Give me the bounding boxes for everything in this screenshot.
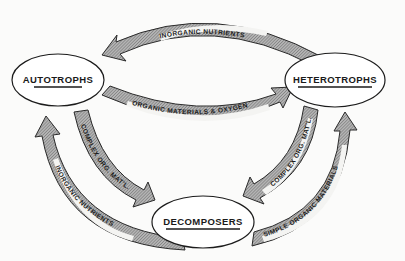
arrow-complex-org-matl-left: COMPLEX ORG. MAT'L. [74, 110, 155, 207]
arrow-complex-org-matl-right: COMPLEX ORG. MAT'L. [243, 106, 318, 204]
node-label: DECOMPOSERS [163, 216, 242, 227]
arrow-organic-materials-oxygen: ORGANIC MATERIALS & OXYGEN [102, 86, 293, 121]
node-label: AUTOTROPHS [23, 74, 93, 85]
ecosystem-cycle-diagram: INORGANIC NUTRIENTS ORGANIC MATERIALS & … [0, 0, 405, 261]
arrow-inorganic-nutrients-top: INORGANIC NUTRIENTS [102, 23, 322, 66]
node-autotrophs: AUTOTROPHS [12, 54, 104, 106]
diagram-canvas: INORGANIC NUTRIENTS ORGANIC MATERIALS & … [0, 0, 405, 261]
node-heterotrophs: HETEROTROPHS [285, 53, 385, 107]
node-label: HETEROTROPHS [293, 74, 377, 85]
node-decomposers: DECOMPOSERS [152, 196, 254, 248]
